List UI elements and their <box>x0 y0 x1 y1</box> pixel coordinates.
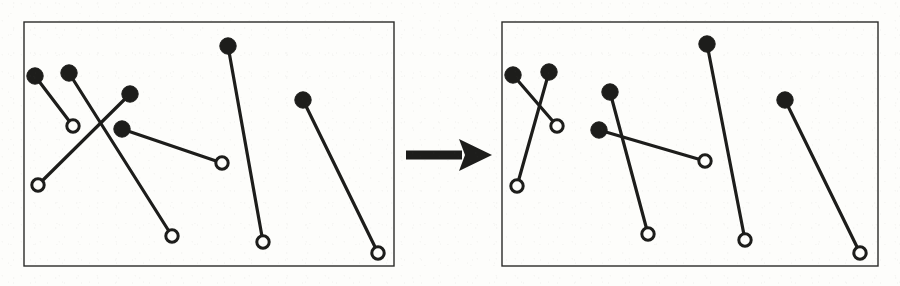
segment-line[interactable] <box>69 73 172 236</box>
open-endpoint-circle[interactable] <box>642 228 654 240</box>
before-panel-segment-3[interactable] <box>32 86 138 191</box>
before-panel <box>24 22 394 266</box>
open-endpoint-circle[interactable] <box>372 247 384 259</box>
segment-line[interactable] <box>599 130 705 161</box>
filled-endpoint-dot[interactable] <box>27 68 43 84</box>
open-endpoint-circle[interactable] <box>511 180 523 192</box>
before-panel-segment-5[interactable] <box>220 38 269 248</box>
filled-endpoint-dot[interactable] <box>114 121 130 137</box>
filled-endpoint-dot[interactable] <box>505 67 521 83</box>
open-endpoint-circle[interactable] <box>551 120 563 132</box>
segment-line[interactable] <box>517 72 549 186</box>
open-endpoint-circle[interactable] <box>32 179 44 191</box>
open-endpoint-circle[interactable] <box>216 157 228 169</box>
filled-endpoint-dot[interactable] <box>541 64 557 80</box>
matching-diagram <box>0 0 900 286</box>
filled-endpoint-dot[interactable] <box>777 92 793 108</box>
segment-line[interactable] <box>35 76 73 126</box>
after-panel-segment-3[interactable] <box>602 84 654 240</box>
filled-endpoint-dot[interactable] <box>699 36 715 52</box>
open-endpoint-circle[interactable] <box>67 120 79 132</box>
open-endpoint-circle[interactable] <box>699 155 711 167</box>
after-panel <box>502 22 878 266</box>
filled-endpoint-dot[interactable] <box>122 86 138 102</box>
filled-endpoint-dot[interactable] <box>591 122 607 138</box>
segment-line[interactable] <box>707 44 745 240</box>
after-panel-segment-5[interactable] <box>699 36 751 246</box>
segment-line[interactable] <box>610 92 648 234</box>
open-endpoint-circle[interactable] <box>739 234 751 246</box>
filled-endpoint-dot[interactable] <box>295 92 311 108</box>
after-panel-border <box>502 22 878 266</box>
transformation-arrow <box>406 139 492 171</box>
open-endpoint-circle[interactable] <box>257 236 269 248</box>
segment-line[interactable] <box>785 100 860 253</box>
filled-endpoint-dot[interactable] <box>220 38 236 54</box>
figure-canvas <box>0 0 900 286</box>
before-panel-segment-2[interactable] <box>61 65 178 242</box>
segment-line[interactable] <box>122 129 222 163</box>
before-panel-segment-4[interactable] <box>114 121 228 169</box>
segment-line[interactable] <box>38 94 130 185</box>
arrow-head-icon <box>459 139 492 171</box>
filled-endpoint-dot[interactable] <box>61 65 77 81</box>
segment-line[interactable] <box>303 100 378 253</box>
filled-endpoint-dot[interactable] <box>602 84 618 100</box>
after-panel-segment-6[interactable] <box>777 92 866 259</box>
segment-line[interactable] <box>228 46 263 242</box>
open-endpoint-circle[interactable] <box>854 247 866 259</box>
before-panel-segment-6[interactable] <box>295 92 384 259</box>
open-endpoint-circle[interactable] <box>166 230 178 242</box>
after-panel-segment-4[interactable] <box>591 122 711 167</box>
